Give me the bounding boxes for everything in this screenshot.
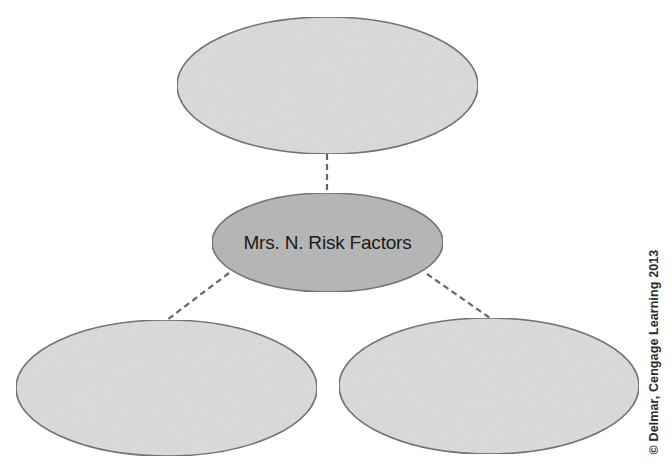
connector-bottom-left (167, 273, 229, 320)
node-center[interactable] (212, 193, 443, 292)
node-bottom-right[interactable] (339, 318, 639, 454)
concept-map-diagram (0, 0, 672, 474)
copyright-credit: © Delmar, Cengage Learning 2013 (647, 250, 661, 455)
node-top[interactable] (177, 17, 478, 154)
node-bottom-left[interactable] (16, 320, 317, 456)
connector-bottom-right (427, 274, 490, 318)
